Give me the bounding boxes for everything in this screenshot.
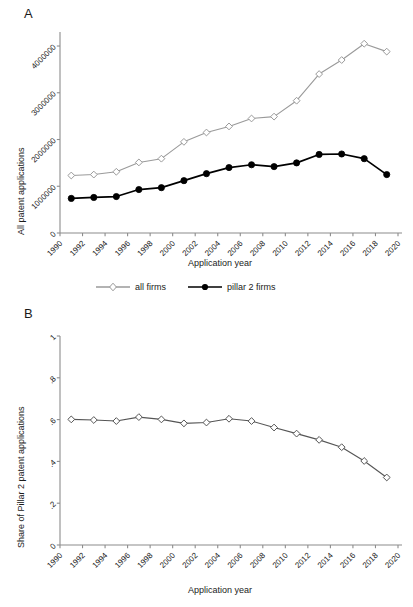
x-tick-label: 1992: [68, 551, 87, 570]
data-point-marker: [316, 151, 322, 157]
panel-a-legend: all firms pillar 2 firms: [96, 281, 276, 293]
data-point-marker: [90, 417, 97, 424]
x-tick-label: 1994: [90, 551, 109, 570]
data-point-marker: [248, 115, 255, 122]
panel-a-x-axis-title: Application year: [150, 258, 290, 268]
y-tick-label: 3000000: [30, 89, 59, 118]
data-point-marker: [271, 164, 277, 170]
data-point-marker: [113, 418, 120, 425]
data-point-marker: [383, 48, 390, 55]
data-point-marker: [68, 195, 74, 201]
x-tick-label: 1994: [90, 239, 109, 258]
data-point-marker: [293, 430, 300, 437]
legend-label-all-firms: all firms: [135, 282, 166, 292]
y-tick-label: .4: [47, 458, 58, 469]
x-tick-label: 2012: [293, 239, 312, 258]
data-point-marker: [294, 160, 300, 166]
data-point-marker: [338, 444, 345, 451]
x-tick-label: 2000: [158, 551, 177, 570]
x-tick-label: 2010: [271, 239, 290, 258]
panel-b-x-axis-title: Application year: [150, 585, 290, 595]
legend-label-pillar2-firms: pillar 2 firms: [227, 282, 276, 292]
data-point-marker: [135, 414, 142, 421]
x-tick-label: 1998: [136, 239, 155, 258]
x-tick-label: 2006: [226, 551, 245, 570]
y-tick-label: 1: [48, 332, 58, 342]
data-point-marker: [158, 416, 165, 423]
legend-swatch-all-firms: [96, 281, 130, 293]
series-line: [71, 154, 386, 198]
x-tick-label: 1990: [45, 551, 64, 570]
x-tick-label: 2008: [248, 551, 267, 570]
x-tick-label: 2014: [316, 239, 335, 258]
x-tick-label: 2006: [226, 239, 245, 258]
data-point-marker: [271, 113, 278, 120]
y-tick-label: .6: [47, 416, 58, 427]
data-point-marker: [135, 159, 142, 166]
data-point-marker: [113, 168, 120, 175]
data-point-marker: [181, 420, 188, 427]
panel-b-y-axis-title: Share of Pillar 2 patent applications: [16, 406, 26, 548]
figure-root: A 01000000200000030000004000000199019921…: [0, 0, 413, 607]
data-point-marker: [181, 178, 187, 184]
x-tick-label: 1996: [113, 239, 132, 258]
x-tick-label: 2002: [181, 239, 200, 258]
x-tick-label: 2020: [383, 551, 402, 570]
data-point-marker: [203, 129, 210, 136]
data-point-marker: [384, 171, 390, 177]
data-point-marker: [271, 424, 278, 431]
data-point-marker: [226, 164, 232, 170]
x-tick-label: 2018: [361, 551, 380, 570]
y-tick-label: 0: [48, 541, 58, 551]
data-point-marker: [68, 416, 75, 423]
data-point-marker: [248, 162, 254, 168]
y-tick-label: 1000000: [30, 182, 59, 211]
panel-a: A 01000000200000030000004000000199019921…: [0, 0, 413, 300]
x-tick-label: 2008: [248, 239, 267, 258]
x-tick-label: 2004: [203, 551, 222, 570]
panel-b-plot: 0.2.4.6.81199019921994199619982000200220…: [0, 300, 413, 607]
data-point-marker: [113, 193, 119, 199]
x-tick-label: 2000: [158, 239, 177, 258]
data-point-marker: [316, 436, 323, 443]
x-tick-label: 2020: [383, 239, 402, 258]
panel-b: B 0.2.4.6.811990199219941996199820002002…: [0, 300, 413, 607]
data-point-marker: [136, 186, 142, 192]
x-tick-label: 2012: [293, 551, 312, 570]
data-point-marker: [248, 418, 255, 425]
data-point-marker: [226, 123, 233, 130]
x-tick-label: 1998: [136, 551, 155, 570]
y-tick-label: 0: [48, 229, 58, 239]
x-tick-label: 1996: [113, 551, 132, 570]
legend-entry-all-firms: all firms: [96, 281, 166, 293]
data-point-marker: [203, 171, 209, 177]
x-tick-label: 2010: [271, 551, 290, 570]
x-tick-label: 2016: [338, 551, 357, 570]
data-point-marker: [91, 194, 97, 200]
data-point-marker: [68, 172, 75, 179]
x-tick-label: 2018: [361, 239, 380, 258]
y-tick-label: .2: [47, 499, 58, 510]
x-tick-label: 1990: [45, 239, 64, 258]
panel-a-y-axis-title: All patent applications: [16, 147, 26, 235]
data-point-marker: [226, 415, 233, 422]
legend-entry-pillar2-firms: pillar 2 firms: [188, 281, 276, 293]
x-tick-label: 2004: [203, 239, 222, 258]
data-point-marker: [361, 156, 367, 162]
y-tick-label: .8: [47, 374, 58, 385]
data-point-marker: [90, 171, 97, 178]
y-tick-label: 4000000: [30, 42, 59, 71]
x-tick-label: 2014: [316, 551, 335, 570]
x-tick-label: 2002: [181, 551, 200, 570]
panel-a-plot: 0100000020000003000000400000019901992199…: [0, 0, 413, 300]
data-point-marker: [203, 419, 210, 426]
y-tick-label: 2000000: [30, 136, 59, 165]
x-tick-label: 1992: [68, 239, 87, 258]
x-tick-label: 2016: [338, 239, 357, 258]
legend-swatch-pillar2-firms: [188, 281, 222, 293]
data-point-marker: [158, 185, 164, 191]
data-point-marker: [339, 151, 345, 157]
